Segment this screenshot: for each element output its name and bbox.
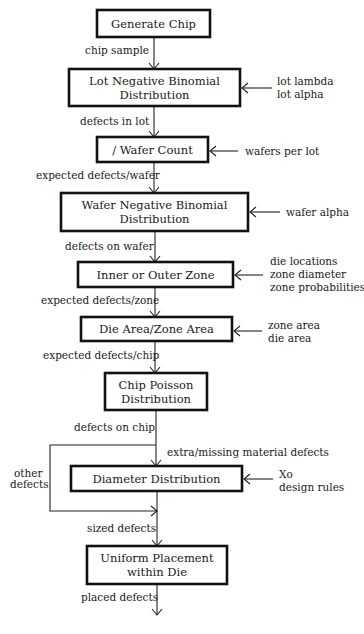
input-label: die locations xyxy=(270,255,338,267)
input-label: Xo xyxy=(279,468,293,480)
input-lot-inputs: lot lambdalot alpha xyxy=(242,75,334,100)
input-label: zone area xyxy=(268,319,320,331)
input-wafer-inputs: wafer alpha xyxy=(250,206,349,218)
flow-label-expected-defects-zone: expected defects/zone xyxy=(41,294,159,306)
flow-label-extra-missing-material-defects: extra/missing material defects xyxy=(167,446,329,458)
process-box-diameter-distribution: Diameter Distribution xyxy=(71,466,242,491)
flow-label-chip-sample: chip sample xyxy=(85,44,149,56)
process-box-die-area-zone-area: Die Area/Zone Area xyxy=(81,317,232,341)
box-label: Lot Negative Binomial xyxy=(89,74,220,88)
process-box-uniform-placement: Uniform Placementwithin Die xyxy=(87,546,227,584)
box-label: Chip Poisson xyxy=(119,378,195,392)
box-label: Inner or Outer Zone xyxy=(97,268,215,282)
input-area-inputs: zone areadie area xyxy=(234,319,320,344)
box-label: within Die xyxy=(127,565,187,579)
flow-label-other-defects-2: defects xyxy=(10,478,49,490)
input-diameter-inputs: Xodesign rules xyxy=(244,468,344,493)
flow-label-defects-on-wafer: defects on wafer xyxy=(65,240,155,252)
flow-label-defects-on-chip: defects on chip xyxy=(74,421,155,433)
input-label: wafer alpha xyxy=(286,206,349,218)
process-box-lot-negative-binomial: Lot Negative BinomialDistribution xyxy=(69,69,240,106)
input-label: lot alpha xyxy=(277,88,324,100)
input-label: lot lambda xyxy=(277,75,334,87)
box-label: Distribution xyxy=(120,88,191,102)
input-label: wafers per lot xyxy=(245,145,320,157)
box-label: Distribution xyxy=(120,212,191,226)
box-label: Die Area/Zone Area xyxy=(99,322,214,336)
flow-label-placed-defects: placed defects xyxy=(81,591,158,603)
input-zone-inputs: die locationszone diameterzone probabili… xyxy=(235,255,364,293)
flow-label-expected-defects-chip: expected defects/chip xyxy=(43,349,160,361)
box-label: Generate Chip xyxy=(111,17,196,31)
flow-label-defects-in-lot: defects in lot xyxy=(80,115,150,127)
process-box-wafer-negative-binomial: Wafer Negative BinomialDistribution xyxy=(61,193,248,231)
process-box-wafer-count: / Wafer Count xyxy=(97,137,208,162)
input-label: die area xyxy=(268,332,311,344)
input-label: design rules xyxy=(279,481,344,493)
flow-label-sized-defects: sized defects xyxy=(87,522,156,534)
input-wafer-count-inputs: wafers per lot xyxy=(210,145,320,157)
box-label: Uniform Placement xyxy=(100,551,214,565)
box-label: / Wafer Count xyxy=(112,143,193,157)
box-label: Distribution xyxy=(121,392,192,406)
input-label: zone probabilities xyxy=(270,281,364,293)
box-label: Wafer Negative Binomial xyxy=(82,198,228,212)
input-label: zone diameter xyxy=(270,268,347,280)
flow-label-expected-defects-wafer: expected defects/wafer xyxy=(36,169,161,181)
defect-flow-diagram: Generate ChipLot Negative BinomialDistri… xyxy=(0,0,364,634)
box-label: Diameter Distribution xyxy=(92,472,221,486)
process-box-inner-outer-zone: Inner or Outer Zone xyxy=(78,262,233,287)
process-box-generate-chip: Generate Chip xyxy=(97,10,210,37)
process-box-chip-poisson: Chip PoissonDistribution xyxy=(105,373,207,410)
